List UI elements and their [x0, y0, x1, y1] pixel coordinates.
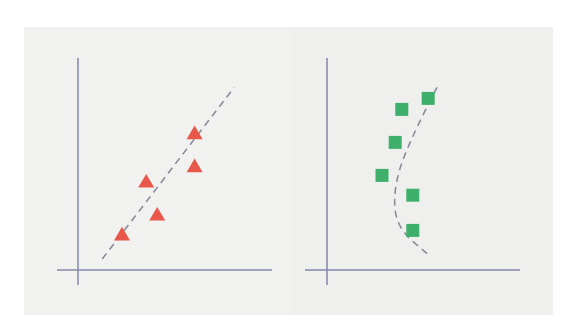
triangle-marker [149, 207, 165, 221]
square-marker [406, 189, 419, 202]
right-scatter-chart [305, 58, 520, 285]
square-marker [376, 169, 389, 182]
triangle-marker [138, 174, 154, 188]
scatter-plots [0, 0, 577, 330]
square-marker [422, 92, 435, 105]
square-marker [395, 103, 408, 116]
triangle-marker [187, 159, 203, 173]
square-marker [389, 136, 402, 149]
triangle-marker [114, 227, 130, 241]
left-scatter-chart [57, 58, 272, 285]
square-marker [406, 224, 419, 237]
